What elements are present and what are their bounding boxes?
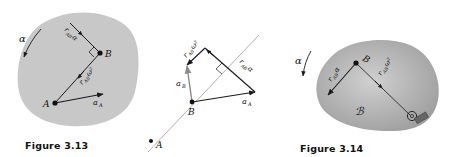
- a-b-label: a B: [176, 79, 186, 89]
- figures-canvas: α B A a A r AB α r AB ω² B: [0, 0, 456, 157]
- figure-3-14: α B ℬ r AB α r AB ω²: [295, 40, 439, 131]
- svg-text:a: a: [176, 79, 181, 88]
- point-b: [97, 50, 102, 55]
- point-b-label: B: [104, 49, 112, 59]
- body-label: ℬ: [355, 105, 365, 118]
- alpha-label: α: [295, 55, 302, 66]
- angular-acceleration-arrow: [303, 51, 311, 76]
- point-a-label: A: [155, 140, 163, 150]
- a-a-label: a A: [242, 97, 252, 107]
- point-a: [149, 139, 153, 143]
- point-a-label: A: [42, 99, 50, 109]
- svg-text:B: B: [181, 83, 186, 89]
- point-b: [190, 100, 195, 105]
- alpha-label: α: [19, 33, 26, 44]
- point-a: [52, 100, 57, 105]
- point-b-label: B: [187, 107, 195, 117]
- figure-3-13: α B A a A r AB α r AB ω²: [18, 13, 139, 127]
- figure-caption-3-14: Figure 3.14: [300, 143, 363, 154]
- svg-text:a: a: [93, 98, 98, 107]
- svg-text:A: A: [98, 102, 103, 108]
- r-ab-alpha-label: r AB α: [237, 58, 255, 75]
- figure-caption-3-13: Figure 3.13: [25, 140, 88, 151]
- point-b: [353, 60, 358, 65]
- rigid-body-shape: [18, 13, 139, 127]
- svg-text:A: A: [247, 101, 252, 107]
- r-ab-omega2-label: r AB ω²: [182, 39, 202, 60]
- acceleration-vector-diagram: B A a B a A r AB ω² r AB α: [148, 35, 259, 152]
- a-b-vector: [187, 66, 192, 102]
- right-angle-marker: [216, 63, 222, 74]
- svg-text:a: a: [242, 97, 247, 106]
